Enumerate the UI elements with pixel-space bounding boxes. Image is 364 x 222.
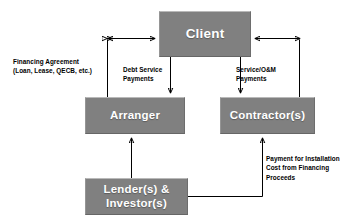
node-lender-label: Lender(s) &Investor(s) [86,183,187,210]
connector-lender-to-contractor [188,138,263,197]
diagram-canvas: Client Arranger Contractor(s) Lender(s) … [0,0,364,222]
caption-financing-agreement: Financing Agreement (Loan, Lease, QECB, … [13,57,92,76]
caption-service-om-payments: Service/O&M Payments [236,65,276,84]
node-arranger[interactable]: Arranger [85,97,185,134]
node-arranger-label: Arranger [86,109,184,123]
node-lender[interactable]: Lender(s) &Investor(s) [85,178,188,215]
caption-payment-for-installation: Payment for Installation Cost from Finan… [266,154,340,182]
node-client-label: Client [160,26,250,42]
node-client[interactable]: Client [159,11,251,57]
node-contractor-label: Contractor(s) [221,109,314,123]
caption-debt-service-payments: Debt Service Payments [123,65,162,84]
node-contractor[interactable]: Contractor(s) [220,97,315,134]
